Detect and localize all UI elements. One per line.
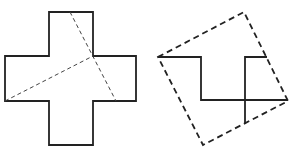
cross-figure	[5, 12, 136, 145]
diagram-canvas	[0, 0, 291, 157]
square-figure	[158, 12, 288, 145]
cross-outline	[5, 12, 136, 145]
dashed-square	[158, 12, 288, 145]
cut-line-2	[5, 56, 93, 101]
